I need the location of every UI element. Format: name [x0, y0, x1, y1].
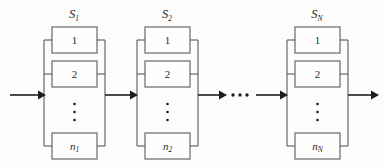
block-label-s2-b1-base: 1	[165, 34, 171, 46]
block-label-sn-b2-base: 2	[315, 68, 321, 80]
block-label-s2-b2: 2	[165, 68, 171, 80]
subsystem-group-s2: S2 1 2 n2	[137, 7, 198, 159]
block-label-s1-bn-sub: 1	[75, 145, 79, 154]
subsystem-label-sn-sub: N	[317, 14, 324, 23]
arrow-head-output	[371, 91, 379, 100]
subsystem-label-s2: S2	[162, 7, 172, 23]
subsystem-label-s2-sub: 2	[168, 14, 172, 23]
block-label-s1-b1: 1	[72, 34, 78, 46]
arrow-dots-to-sn	[256, 91, 288, 100]
vertical-dots-s2	[166, 103, 169, 122]
diagram-canvas: S1 1 2 n1	[0, 0, 387, 167]
block-label-sn-bn-sub: N	[317, 145, 324, 154]
subsystem-label-s1-sub: 1	[75, 14, 79, 23]
block-label-s2-b1: 1	[165, 34, 171, 46]
arrow-head-s2-dots	[219, 91, 227, 100]
block-label-s1-b2: 2	[72, 68, 78, 80]
arrow-head-input	[38, 91, 46, 100]
subsystem-label-s1: S1	[69, 7, 79, 23]
block-label-sn-b2: 2	[315, 68, 321, 80]
arrow-s2-to-dots	[198, 91, 227, 100]
subsystem-label-sn: SN	[311, 7, 323, 23]
horizontal-dots-continuation	[231, 93, 248, 96]
vertical-dots-sn	[316, 103, 319, 122]
input-flow-arrow	[10, 91, 46, 100]
vertical-dots-s1	[73, 103, 76, 122]
arrow-s1-to-s2	[105, 91, 138, 100]
block-label-s1-b1-base: 1	[72, 34, 78, 46]
block-label-sn-b1: 1	[315, 34, 321, 46]
block-label-s2-bn-sub: 2	[168, 145, 172, 154]
block-label-s2-b2-base: 2	[165, 68, 171, 80]
reliability-block-diagram: S1 1 2 n1	[0, 0, 387, 167]
output-flow-arrow	[348, 91, 379, 100]
subsystem-group-s1: S1 1 2 n1	[44, 7, 105, 159]
block-label-s1-b2-base: 2	[72, 68, 78, 80]
block-label-sn-b1-base: 1	[315, 34, 321, 46]
subsystem-group-sn: SN 1 2 nN	[287, 7, 348, 159]
